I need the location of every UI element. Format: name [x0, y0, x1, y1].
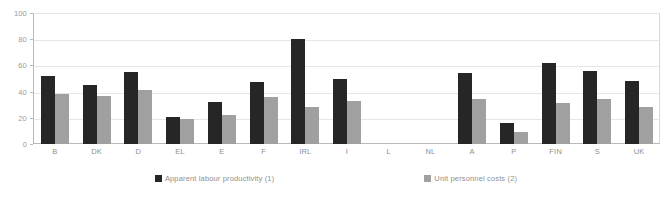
y-tick-mark — [30, 92, 33, 93]
legend-item[interactable]: Unit personnel costs (2) — [424, 174, 517, 183]
x-axis-label: B — [34, 147, 76, 156]
bar — [347, 101, 361, 144]
x-axis-label: I — [326, 147, 368, 156]
bar-pair — [124, 13, 152, 144]
y-tick-mark — [30, 39, 33, 40]
bar-pair — [41, 13, 69, 144]
bar-pair — [583, 13, 611, 144]
bar-group — [159, 13, 201, 144]
bar — [305, 107, 319, 144]
y-tick-label: 60 — [0, 61, 27, 70]
legend-swatch-icon — [155, 175, 162, 182]
x-axis-label: DK — [76, 147, 118, 156]
bar — [556, 103, 570, 144]
x-axis-label: F — [243, 147, 285, 156]
bar-group — [201, 13, 243, 144]
bar — [124, 72, 138, 144]
y-tick-label: 0 — [0, 140, 27, 149]
y-tick-mark — [30, 118, 33, 119]
bar-group — [577, 13, 619, 144]
bar-group — [326, 13, 368, 144]
bar — [97, 96, 111, 144]
bar — [639, 107, 653, 144]
x-axis-label: P — [493, 147, 535, 156]
y-tick-label: 80 — [0, 35, 27, 44]
y-tick-label: 20 — [0, 113, 27, 122]
chart-legend: Apparent labour productivity (1)Unit per… — [0, 174, 672, 183]
bar — [597, 99, 611, 144]
bar — [472, 99, 486, 144]
bar — [500, 123, 514, 144]
bar — [514, 132, 528, 144]
y-tick-mark — [30, 13, 33, 14]
bar-group — [368, 13, 410, 144]
bar-group — [34, 13, 76, 144]
bar — [542, 63, 556, 144]
bar-group — [618, 13, 660, 144]
y-tick-mark — [30, 65, 33, 66]
bar-pair — [333, 13, 361, 144]
bar-group — [410, 13, 452, 144]
x-axis-label: L — [368, 147, 410, 156]
x-axis-label: FIN — [535, 147, 577, 156]
bar — [208, 102, 222, 144]
bar-pair — [250, 13, 278, 144]
bar-pair — [416, 13, 444, 144]
y-tick-mark — [30, 144, 33, 145]
bar-pair — [500, 13, 528, 144]
bar — [55, 94, 69, 144]
bar-groups — [34, 13, 660, 144]
bar — [625, 81, 639, 144]
bar — [83, 85, 97, 144]
bar-group — [284, 13, 326, 144]
x-axis-label: EL — [159, 147, 201, 156]
bar — [583, 71, 597, 144]
bar — [180, 119, 194, 144]
y-tick-label: 40 — [0, 87, 27, 96]
bar-group — [243, 13, 285, 144]
legend-label: Unit personnel costs (2) — [434, 174, 517, 183]
bar-pair — [458, 13, 486, 144]
x-axis-label: UK — [618, 147, 660, 156]
bar — [41, 76, 55, 144]
legend-swatch-icon — [424, 175, 431, 182]
x-axis-label: A — [451, 147, 493, 156]
bar-pair — [375, 13, 403, 144]
x-axis-label: E — [201, 147, 243, 156]
bar — [138, 90, 152, 144]
legend-label: Apparent labour productivity (1) — [165, 174, 274, 183]
bar — [291, 39, 305, 144]
x-axis-label: S — [577, 147, 619, 156]
bar-group — [76, 13, 118, 144]
bar-group — [535, 13, 577, 144]
bar — [166, 117, 180, 145]
bar — [222, 115, 236, 144]
bar-pair — [625, 13, 653, 144]
bar-pair — [83, 13, 111, 144]
bar — [333, 79, 347, 145]
bar-pair — [542, 13, 570, 144]
bar-pair — [291, 13, 319, 144]
x-axis-label: NL — [410, 147, 452, 156]
bar-pair — [166, 13, 194, 144]
legend-item[interactable]: Apparent labour productivity (1) — [155, 174, 274, 183]
y-tick-label: 100 — [0, 9, 27, 18]
x-axis-label: D — [117, 147, 159, 156]
bar-group — [493, 13, 535, 144]
bar-group — [117, 13, 159, 144]
bar — [250, 82, 264, 144]
x-axis-labels: BDKDELEFIRLILNLAPFINSUK — [34, 147, 660, 156]
bar-pair — [208, 13, 236, 144]
bar — [458, 73, 472, 144]
bar-group — [451, 13, 493, 144]
bar — [264, 97, 278, 144]
x-axis-label: IRL — [284, 147, 326, 156]
bar-chart: 020406080100 BDKDELEFIRLILNLAPFINSUK App… — [0, 0, 672, 198]
